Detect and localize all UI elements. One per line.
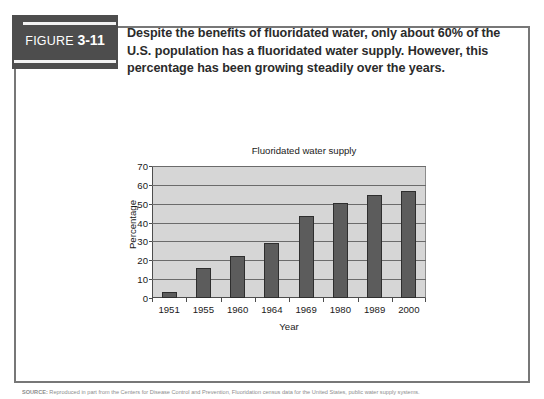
- bar[interactable]: [196, 268, 211, 298]
- x-tick-label: 2000: [375, 304, 444, 315]
- bar-slot: [186, 166, 220, 298]
- figure-label-number: 3-11: [77, 32, 104, 48]
- bar-slot: [289, 166, 323, 298]
- x-tick-mark: [186, 298, 187, 302]
- bar-chart: Fluoridated water supply Percentage 7060…: [118, 145, 434, 340]
- bar[interactable]: [299, 216, 314, 298]
- bar[interactable]: [162, 292, 177, 298]
- badge-rule-bottom: [14, 60, 116, 63]
- source-text: Reproduced in part from the Centers for …: [48, 389, 420, 395]
- plot-wrap: 706050403020100: [152, 166, 426, 298]
- x-tick-mark-end: [425, 298, 426, 302]
- x-tick-mark: [152, 298, 153, 302]
- source-note: SOURCE: Reproduced in part from the Cent…: [22, 389, 522, 399]
- bar[interactable]: [264, 243, 279, 298]
- y-tick-label: 60: [137, 179, 148, 190]
- x-axis-ticks: 19511955196019641969198019892000: [152, 298, 426, 318]
- figure-number-text: FIGURE 3-11: [12, 32, 118, 48]
- y-axis-label: Percentage: [127, 185, 138, 265]
- caption-line-2: U.S. population has a fluoridated water …: [127, 43, 519, 61]
- figure-caption: Despite the benefits of fluoridated wate…: [127, 25, 519, 78]
- badge-rule-top: [23, 22, 116, 25]
- x-tick-mark: [323, 298, 324, 302]
- bar[interactable]: [367, 195, 382, 298]
- y-tick-label: 10: [137, 274, 148, 285]
- figure-label-prefix: FIGURE: [25, 34, 77, 48]
- x-tick-mark: [255, 298, 256, 302]
- chart-title: Fluoridated water supply: [118, 145, 434, 156]
- x-tick-mark: [221, 298, 222, 302]
- y-tick-label: 40: [137, 217, 148, 228]
- x-tick-mark: [289, 298, 290, 302]
- x-tick-slot: 2000: [392, 298, 426, 318]
- x-tick-mark: [392, 298, 393, 302]
- x-axis-label: Year: [152, 321, 426, 332]
- y-tick-label: 70: [137, 161, 148, 172]
- x-tick-mark: [358, 298, 359, 302]
- y-tick-label: 20: [137, 255, 148, 266]
- bar[interactable]: [333, 203, 348, 298]
- bar-series: [152, 166, 426, 298]
- bar-slot: [221, 166, 255, 298]
- bar-slot: [358, 166, 392, 298]
- bar[interactable]: [401, 191, 416, 298]
- y-tick-label: 50: [137, 198, 148, 209]
- y-tick-label: 0: [143, 293, 148, 304]
- bar-slot: [392, 166, 426, 298]
- figure-number-badge: FIGURE 3-11: [12, 15, 118, 69]
- source-label: SOURCE:: [22, 389, 48, 395]
- bar-slot: [255, 166, 289, 298]
- caption-line-1: Despite the benefits of fluoridated wate…: [127, 25, 519, 43]
- bar-slot: [323, 166, 357, 298]
- bar[interactable]: [230, 256, 245, 298]
- y-tick-label: 30: [137, 236, 148, 247]
- caption-line-3: percentage has been growing steadily ove…: [127, 60, 519, 78]
- bar-slot: [152, 166, 186, 298]
